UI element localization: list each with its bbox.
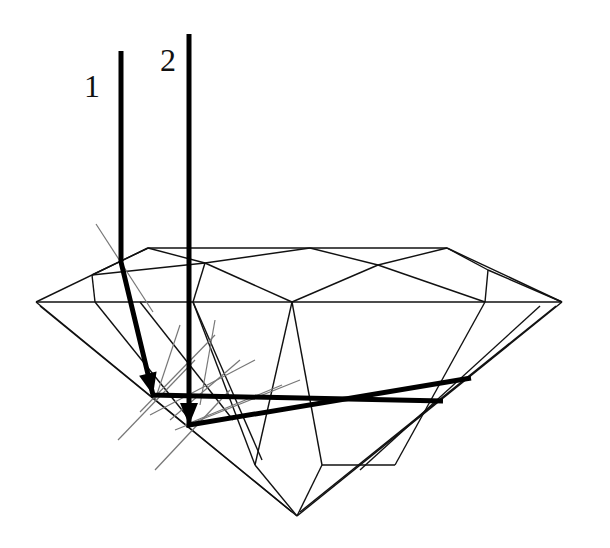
facet-edge <box>40 306 292 512</box>
facet-edge <box>193 302 255 465</box>
facet-edge <box>300 306 556 512</box>
facet-edge <box>378 248 447 265</box>
facet-edge <box>255 465 297 516</box>
facet-edge <box>292 265 378 302</box>
facet-edge <box>485 270 488 302</box>
ray-2-label: 2 <box>160 44 176 76</box>
diamond-outline <box>36 248 562 516</box>
facet-edge <box>378 265 485 302</box>
facet-edge <box>310 248 378 265</box>
facet-edge <box>205 263 292 302</box>
facet-edge <box>255 302 292 465</box>
light-rays <box>121 34 471 425</box>
facet-edge <box>488 270 562 302</box>
facet-edge <box>205 248 310 263</box>
facet-edge <box>297 302 562 516</box>
ray-2-path <box>189 34 471 425</box>
ray-1-label: 1 <box>84 70 100 102</box>
normal-line <box>200 320 215 405</box>
facet-edge <box>360 306 540 470</box>
normal-line <box>155 390 230 470</box>
facet-edge <box>193 302 262 460</box>
facet-edge <box>148 248 205 263</box>
facet-edge <box>292 302 322 465</box>
facet-edge <box>92 275 95 302</box>
facet-edge <box>297 465 322 516</box>
facet-edge <box>447 248 488 270</box>
facet-edge <box>193 263 205 302</box>
